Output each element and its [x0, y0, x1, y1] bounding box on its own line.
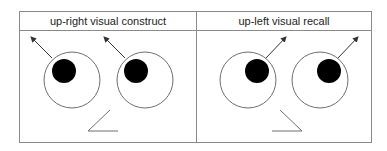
face-up-left	[31, 37, 173, 131]
faces-illustration	[0, 0, 387, 151]
pupil-icon	[124, 59, 148, 83]
eye-outline-icon	[220, 52, 276, 108]
gaze-arrow-icon	[338, 37, 358, 58]
pupil-icon	[317, 59, 341, 83]
face-up-right	[220, 37, 358, 131]
gaze-arrow-icon	[104, 37, 125, 58]
eye-outline-icon	[44, 52, 100, 108]
eye-outline-icon	[292, 52, 348, 108]
nose-icon	[88, 110, 118, 131]
nose-icon	[272, 110, 302, 131]
gaze-arrow-icon	[31, 37, 52, 58]
pupil-icon	[245, 59, 269, 83]
gaze-arrow-icon	[266, 37, 286, 58]
pupil-icon	[52, 59, 76, 83]
eye-outline-icon	[117, 52, 173, 108]
